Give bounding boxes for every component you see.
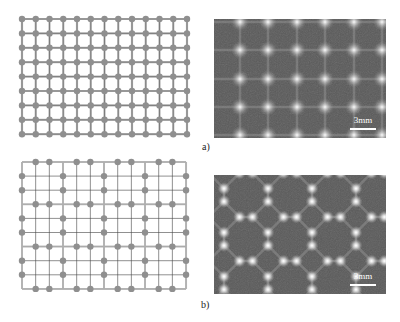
scale-bar-b: 3mm xyxy=(350,265,376,286)
lattice-node xyxy=(87,243,93,249)
lattice-node xyxy=(142,215,148,221)
lattice-node xyxy=(87,286,93,292)
lattice-node xyxy=(142,258,148,264)
lattice-node xyxy=(74,117,80,123)
lattice-node xyxy=(183,173,189,179)
lattice-node xyxy=(115,30,121,36)
lattice-node xyxy=(184,117,190,123)
lattice-node xyxy=(60,117,66,123)
lattice-node xyxy=(156,131,162,137)
panel-label-a: a) xyxy=(202,142,210,152)
lattice-node xyxy=(101,73,107,79)
lattice-node xyxy=(184,30,190,36)
lattice-node xyxy=(46,30,52,36)
lattice-node xyxy=(156,88,162,94)
lattice-node xyxy=(114,243,120,249)
lattice-node xyxy=(169,159,175,165)
scale-bar-label-a: 3mm xyxy=(354,115,373,125)
lattice-node xyxy=(19,215,25,221)
lattice-node xyxy=(101,272,107,278)
lattice-node xyxy=(170,117,176,123)
lattice-node xyxy=(33,59,39,65)
lattice-node xyxy=(73,286,79,292)
lattice-node xyxy=(156,59,162,65)
lattice-node xyxy=(88,102,94,108)
lattice-node xyxy=(88,45,94,51)
lattice-node xyxy=(46,286,52,292)
lattice-node xyxy=(46,16,52,22)
lattice-node xyxy=(184,16,190,22)
lattice-node xyxy=(19,30,25,36)
lattice-node xyxy=(19,272,25,278)
lattice-node xyxy=(101,131,107,137)
lattice-node xyxy=(115,45,121,51)
octagon-square-lattice-diagram xyxy=(0,150,200,300)
lattice-node xyxy=(114,159,120,165)
lattice-node xyxy=(87,159,93,165)
lattice-node xyxy=(183,187,189,193)
lattice-node xyxy=(60,258,66,264)
lattice-node xyxy=(32,201,38,207)
lattice-node xyxy=(101,16,107,22)
lattice-node xyxy=(128,159,134,165)
lattice-node xyxy=(60,88,66,94)
lattice-node xyxy=(115,16,121,22)
lattice-node xyxy=(88,30,94,36)
lattice-node xyxy=(33,73,39,79)
lattice-node xyxy=(74,88,80,94)
lattice-node xyxy=(143,117,149,123)
lattice-node xyxy=(101,215,107,221)
lattice-node xyxy=(114,286,120,292)
lattice-node xyxy=(156,102,162,108)
lattice-node xyxy=(73,243,79,249)
lattice-node xyxy=(60,173,66,179)
lattice-node xyxy=(169,286,175,292)
lattice-node xyxy=(74,45,80,51)
lattice-node xyxy=(74,102,80,108)
panel-b-photo: 3mm xyxy=(214,175,386,294)
lattice-node xyxy=(74,59,80,65)
lattice-node xyxy=(19,173,25,179)
lattice-node xyxy=(184,73,190,79)
lattice-node xyxy=(46,131,52,137)
lattice-node xyxy=(115,88,121,94)
lattice-node xyxy=(101,59,107,65)
lattice-node xyxy=(129,30,135,36)
panel-a-diagram xyxy=(0,0,200,150)
lattice-node xyxy=(183,258,189,264)
lattice-node xyxy=(19,102,25,108)
lattice-node xyxy=(184,131,190,137)
lattice-node xyxy=(169,201,175,207)
lattice-node xyxy=(60,102,66,108)
lattice-node xyxy=(88,73,94,79)
lattice-node xyxy=(143,16,149,22)
lattice-node xyxy=(33,88,39,94)
lattice-node xyxy=(115,131,121,137)
lattice-node xyxy=(170,73,176,79)
scale-bar-label-b: 3mm xyxy=(354,271,373,281)
lattice-node xyxy=(33,117,39,123)
lattice-node xyxy=(46,88,52,94)
lattice-node xyxy=(73,201,79,207)
lattice-node xyxy=(170,30,176,36)
lattice-node xyxy=(33,45,39,51)
lattice-node xyxy=(60,73,66,79)
lattice-node xyxy=(101,187,107,193)
lattice-node xyxy=(101,173,107,179)
lattice-node xyxy=(60,30,66,36)
lattice-node xyxy=(60,187,66,193)
lattice-node xyxy=(74,30,80,36)
square-lattice-diagram xyxy=(0,0,200,150)
lattice-node xyxy=(156,286,162,292)
lattice-node xyxy=(184,45,190,51)
lattice-node xyxy=(101,88,107,94)
lattice-node xyxy=(129,117,135,123)
lattice-node xyxy=(60,215,66,221)
lattice-node xyxy=(74,131,80,137)
lattice-node xyxy=(60,229,66,235)
lattice-node xyxy=(46,117,52,123)
lattice-node xyxy=(60,16,66,22)
lattice-node xyxy=(184,102,190,108)
lattice-node xyxy=(32,243,38,249)
lattice-node xyxy=(115,73,121,79)
